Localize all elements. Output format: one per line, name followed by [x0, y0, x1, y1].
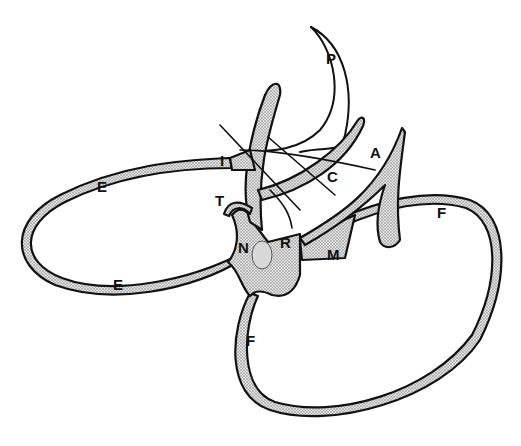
label-t: T	[215, 192, 224, 209]
label-f-right: F	[437, 204, 446, 221]
label-f-lower: F	[246, 332, 255, 349]
arm-c	[258, 118, 364, 200]
left-loop-e	[22, 158, 248, 294]
label-p: P	[326, 50, 336, 67]
label-c: C	[327, 168, 338, 185]
label-a: A	[370, 144, 381, 161]
label-r: R	[280, 234, 291, 251]
label-e-upper: E	[97, 178, 107, 195]
nucleus-n	[252, 241, 272, 269]
label-m: M	[327, 246, 340, 263]
diagram-figure: P I A C E T F N R M E F	[0, 0, 521, 446]
label-n: N	[238, 239, 249, 256]
stub-upper-left	[230, 150, 255, 170]
label-e-lower: E	[113, 276, 123, 293]
label-i: I	[220, 152, 224, 169]
right-loop-f	[235, 195, 501, 416]
